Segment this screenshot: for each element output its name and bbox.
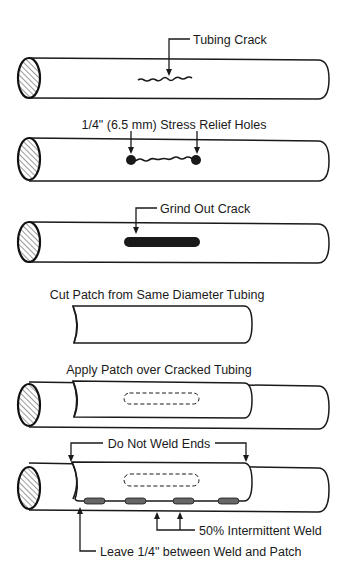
arrow-down-icon [68,455,74,462]
relief-hole-left [126,155,136,165]
label-do-not-weld-ends: Do Not Weld Ends [108,437,211,451]
weld-bead [84,498,105,504]
intermittent-weld-callout [154,512,195,530]
tube-cross-section-icon [18,467,40,509]
step-3-tube [18,208,329,263]
relief-hole-right [191,155,201,165]
arrow-down-icon [243,455,249,462]
step-1-tube [18,39,329,99]
label-cut-patch: Cut Patch from Same Diameter Tubing [50,288,265,302]
ground-out-crack [124,237,200,247]
weld-bead [218,498,239,504]
step-6-tube [18,462,329,512]
step-2-tube [18,131,329,181]
label-apply-patch: Apply Patch over Cracked Tubing [66,363,252,377]
arrow-up-icon [177,512,183,519]
patch [73,381,252,418]
weld-bead [125,498,146,504]
patch [72,462,252,501]
step-5-tube [18,381,329,429]
weld-bead [173,498,194,504]
weld-gap-callout [77,507,96,551]
label-tubing-crack: Tubing Crack [193,33,268,47]
tubing-repair-diagram: Tubing Crack 1/4" (6.5 mm) Stress Relief… [0,0,346,584]
arrow-up-icon [154,512,160,519]
tube-cross-section-icon [18,384,40,426]
step-4-patch [73,306,252,343]
label-grind-out-crack: Grind Out Crack [160,202,251,216]
tube-cross-section-icon [18,222,40,262]
tube-cross-section-icon [18,58,40,98]
label-stress-relief-holes: 1/4" (6.5 mm) Stress Relief Holes [81,118,266,132]
label-intermittent-weld: 50% Intermittent Weld [199,524,322,538]
tube-cross-section-icon [18,138,40,180]
label-weld-gap: Leave 1/4" between Weld and Patch [100,545,302,559]
